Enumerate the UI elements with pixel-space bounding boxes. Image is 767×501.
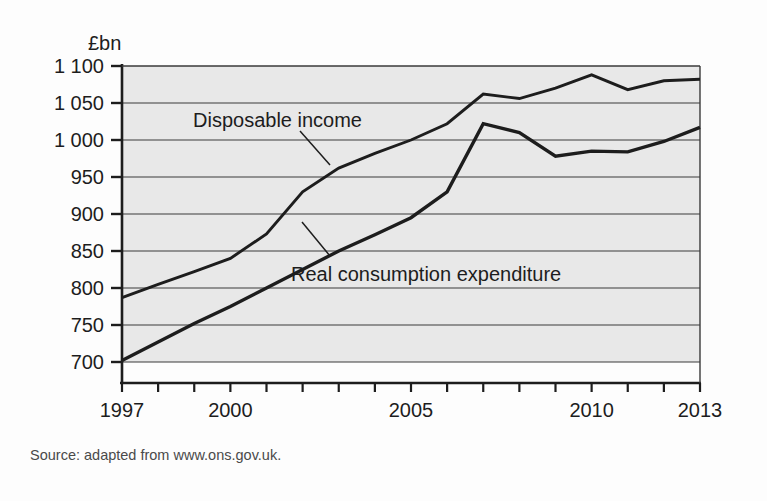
x-axis-ticks xyxy=(122,383,700,392)
x-tick-label: 2010 xyxy=(569,399,614,421)
x-tick-label: 2013 xyxy=(678,399,723,421)
x-tick-label: 2000 xyxy=(208,399,253,421)
series-label-real-consumption-expenditure: Real consumption expenditure xyxy=(291,263,561,285)
y-tick-label: 1 000 xyxy=(54,129,104,151)
chart-figure: 7007508008509009501 0001 0501 100 199720… xyxy=(0,0,767,501)
y-tick-label: 1 050 xyxy=(54,92,104,114)
y-tick-label: 750 xyxy=(71,314,104,336)
x-axis-tick-labels: 19972000200520102013 xyxy=(100,399,723,421)
source-note: Source: adapted from www.ons.gov.uk. xyxy=(30,447,281,463)
y-tick-label: 850 xyxy=(71,240,104,262)
x-tick-label: 2005 xyxy=(389,399,434,421)
y-axis-unit-label: £bn xyxy=(88,32,121,54)
source-note-wrap: Source: adapted from www.ons.gov.uk. xyxy=(0,440,767,480)
y-tick-label: 900 xyxy=(71,203,104,225)
y-tick-label: 950 xyxy=(71,166,104,188)
y-tick-label: 1 100 xyxy=(54,55,104,77)
y-tick-label: 800 xyxy=(71,277,104,299)
series-label-disposable-income: Disposable income xyxy=(193,109,362,131)
y-axis-ticks xyxy=(111,66,122,362)
x-tick-label: 1997 xyxy=(100,399,145,421)
y-axis-tick-labels: 7007508008509009501 0001 0501 100 xyxy=(54,55,104,373)
line-chart: 7007508008509009501 0001 0501 100 199720… xyxy=(0,0,767,501)
y-tick-label: 700 xyxy=(71,351,104,373)
